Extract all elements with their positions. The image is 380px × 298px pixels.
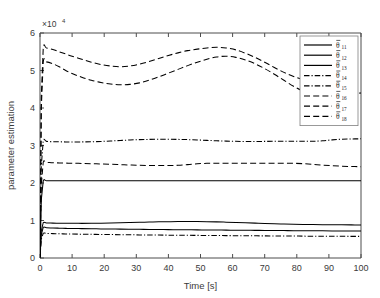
- legend-label-subscript: 11: [342, 44, 347, 50]
- legend-label-subscript: 18: [342, 116, 348, 122]
- chart-canvas: 01020304050607080901000123456×104Time [s…: [0, 0, 380, 298]
- legend-label-theta: θ: [336, 71, 340, 80]
- series-line-15: [40, 233, 361, 257]
- legend-label-theta: θ: [336, 102, 340, 111]
- x-tick-label: 20: [99, 263, 109, 273]
- legend-label-subscript: 15: [342, 85, 348, 91]
- y-tick-label: 4: [30, 103, 35, 113]
- legend-label-theta: θ: [336, 92, 340, 101]
- x-tick-label: 50: [195, 263, 205, 273]
- y-tick-label: 0: [30, 253, 35, 263]
- series-line-13: [40, 227, 361, 257]
- series-line-18: [40, 161, 361, 258]
- x-tick-label: 0: [37, 263, 42, 273]
- legend-label-subscript: 13: [342, 65, 348, 71]
- x-axis-title: Time [s]: [184, 280, 217, 291]
- y-axis-title: parameter estimation: [5, 101, 16, 190]
- y-tick-label: 2: [30, 178, 35, 188]
- y-tick-label: 6: [30, 28, 35, 38]
- legend-label-theta: θ: [336, 41, 340, 50]
- x-tick-label: 40: [163, 263, 173, 273]
- y-tick-label: 1: [30, 216, 35, 226]
- legend-label-theta: θ: [336, 112, 340, 121]
- y-tick-label: 5: [30, 66, 35, 76]
- x-tick-label: 10: [67, 263, 77, 273]
- legend-label-subscript: 16: [342, 95, 348, 101]
- y-axis-exponent: ×104: [42, 18, 66, 29]
- x-tick-label: 80: [292, 263, 302, 273]
- x-tick-label: 90: [324, 263, 334, 273]
- series-line-14: [40, 139, 361, 257]
- series-line-12: [40, 222, 361, 258]
- legend-label-subscript: 17: [342, 106, 348, 112]
- y-tick-label: 3: [30, 141, 35, 151]
- parameter-estimation-figure: 01020304050607080901000123456×104Time [s…: [0, 0, 380, 298]
- legend-label-subscript: 12: [342, 55, 348, 61]
- svg-text:4: 4: [62, 18, 66, 24]
- x-tick-label: 30: [131, 263, 141, 273]
- x-tick-label: 70: [260, 263, 270, 273]
- svg-text:×10: ×10: [42, 19, 57, 29]
- legend-label-theta: θ: [336, 61, 340, 70]
- legend-label-theta: θ: [336, 51, 340, 60]
- x-tick-label: 100: [353, 263, 368, 273]
- legend-label-subscript: 14: [342, 75, 348, 81]
- x-tick-label: 60: [228, 263, 238, 273]
- series-line-11: [40, 180, 361, 258]
- legend[interactable]: θ11θ12θ13θ14θ15θ16θ17θ18: [300, 36, 358, 126]
- legend-label-theta: θ: [336, 81, 340, 90]
